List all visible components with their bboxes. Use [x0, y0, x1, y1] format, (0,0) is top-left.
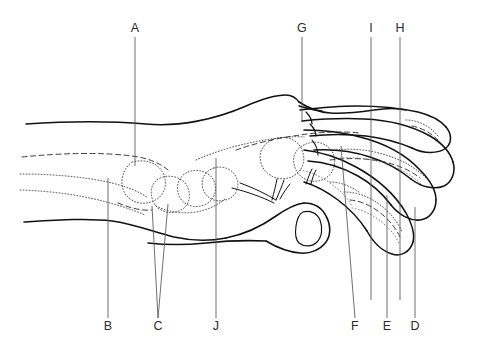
ring-finger-bottom-contour	[308, 161, 391, 205]
ring-finger-tip	[391, 200, 436, 220]
little-finger-bottom-contour	[304, 182, 367, 231]
forearm-dorsal-contour	[26, 95, 299, 125]
ulna-shaft-superior	[20, 174, 148, 198]
label-A[interactable]: A	[131, 21, 140, 35]
label-G[interactable]: G	[297, 21, 307, 35]
tendon-line-3	[272, 179, 277, 200]
tendon-line-7	[311, 170, 316, 184]
carpal-inferior-border	[156, 198, 226, 213]
soft-tissue-outlines	[24, 95, 454, 255]
carpal-bone-3	[202, 167, 238, 201]
radius-superior-border	[22, 153, 168, 170]
knuckle-web-index	[306, 112, 312, 124]
ring-finger-top-contour	[304, 130, 436, 200]
label-H[interactable]: H	[395, 21, 404, 35]
label-C[interactable]: C	[153, 319, 162, 333]
thumb-lower-contour	[148, 241, 266, 245]
little-finger-top-contour	[304, 150, 414, 242]
leader-line-C-right	[158, 204, 168, 318]
ulna-shaft-inferior	[20, 190, 145, 215]
hand-anatomy-figure: A G I H B C J F E D	[0, 0, 480, 349]
label-J[interactable]: J	[213, 319, 219, 333]
middle-finger-tip	[411, 162, 454, 188]
forearm-palmar-contour	[24, 219, 226, 240]
carpal-bone-2	[177, 170, 215, 206]
skeleton-outlines	[20, 120, 438, 244]
carpal-bone-1	[151, 176, 189, 212]
middle-finger-top-contour	[302, 119, 453, 162]
tendon-line-4	[276, 180, 284, 200]
label-F[interactable]: F	[351, 319, 359, 333]
thumb-contour	[266, 203, 330, 253]
leader-lines-group	[108, 37, 415, 318]
thumb-upper-contour	[226, 203, 304, 238]
label-B[interactable]: B	[104, 319, 113, 333]
thumbnail	[296, 211, 322, 245]
metacarpal-head-1	[260, 137, 304, 178]
leader-line-C-left	[152, 206, 158, 318]
little-finger-tip	[367, 231, 413, 255]
tendon-detail-lines	[232, 169, 316, 203]
hand-anatomy-illustration: A G I H B C J F E D	[0, 0, 480, 349]
label-E[interactable]: E	[383, 319, 392, 333]
leader-line-F	[341, 146, 355, 318]
label-I[interactable]: I	[369, 21, 373, 35]
ulna-distal-border	[118, 203, 152, 210]
index-finger-top-contour	[300, 106, 446, 127]
metacarpal-dorsal-border	[196, 137, 304, 160]
phalanx-shading-ring	[352, 208, 399, 244]
radius-distal-head	[122, 161, 166, 203]
label-D[interactable]: D	[410, 319, 419, 333]
